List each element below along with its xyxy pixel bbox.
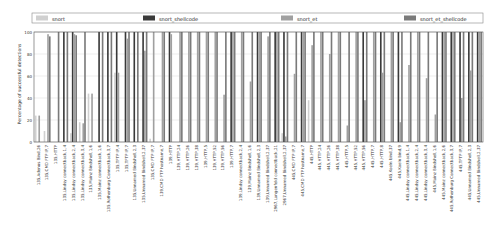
bar-snort-et [452, 32, 454, 142]
legend-label-snort: snort [52, 16, 65, 22]
bar-snort-et-shellcode [357, 32, 359, 142]
bar-snort-et-shellcode [163, 32, 165, 142]
x-tick-label: 135,CMD FTP IP,7 [44, 145, 49, 181]
x-tick-label: 2967,Langenfeld connectback,21 [273, 145, 278, 212]
bar-snort-et-shellcode [331, 32, 333, 142]
chart-container: snortsnort_shellcodesnort_etsnort_et_she… [0, 0, 485, 234]
x-tick-label: 445,HTTP,7 [370, 145, 375, 168]
x-tick-label: 445,Mainz connectback,2,6 [441, 145, 446, 200]
bar-snort-et [179, 32, 181, 142]
bar-snort-et [285, 137, 287, 143]
legend-label-snort-et: snort_et [297, 16, 317, 23]
bar-snort-et-shellcode [401, 32, 403, 142]
bar-snort-et [153, 32, 155, 142]
x-tick-label: 139,HTTP,56 [220, 145, 225, 171]
bar-snort-et [470, 71, 472, 143]
bar-snort-et-shellcode [67, 32, 69, 142]
bar-snort-shellcode [142, 32, 144, 142]
bar-snort-shellcode [257, 32, 259, 142]
bar-snort-et-shellcode [419, 32, 421, 142]
x-tick-label: 139,Mainz Bindshell,1,6 [247, 145, 252, 193]
bar-snort-et-shellcode [384, 32, 386, 142]
bar-snort-et-shellcode [348, 32, 350, 142]
bar-snort-et [206, 32, 208, 142]
x-tick-label: 135,Unnamed Bindshell,2,37 [141, 145, 146, 203]
bar-snort-et-shellcode [234, 32, 236, 142]
bar-snort-et [329, 54, 331, 142]
x-tick-label: 135,CMD FTP IP,7 [150, 145, 155, 181]
x-tick-label: 135,Lindsy connectback,2,4 [71, 145, 76, 202]
bar-snort-et [74, 34, 76, 142]
bar-snort-et-shellcode [181, 32, 183, 142]
y-tick-label: 20 [27, 118, 33, 123]
x-tick-label: 139,CMD FTP hostname,7 [159, 145, 164, 197]
bar-snort-shellcode [63, 32, 65, 142]
x-tick-label: 139,Lindsy connectback,2,4 [238, 145, 243, 202]
x-tick-label: 139,Unnamed Bindshell,2,3 [256, 145, 261, 201]
bar-snort-et-shellcode [428, 32, 430, 142]
x-tick-label: 445,Lindsy connectback,3,4 [423, 145, 428, 202]
bar-snort-et [408, 65, 410, 142]
bar-snort-et-shellcode [463, 32, 465, 142]
x-tick-label: 445,HTTP,26 [326, 145, 331, 171]
x-tick-label: 135,Rothenburg Connectback,3,7 [106, 145, 111, 213]
x-tick-label: 135,Lindsy connectback,1,4 [62, 145, 67, 202]
bar-snort-et [118, 73, 120, 142]
bar-snort-et [382, 73, 384, 142]
bar-snort-shellcode [116, 32, 118, 142]
x-tick-label: 445,Unnamed Bindshell,2,37 [476, 145, 481, 203]
bar-snort-shellcode [468, 32, 470, 142]
y-tick-label: 60 [27, 74, 33, 79]
bar-snort-shellcode [477, 32, 479, 142]
x-tick-label: 135,Mainz Bindshell,1,6 [88, 145, 93, 193]
bar-chart: snortsnort_shellcodesnort_etsnort_et_she… [0, 0, 485, 234]
x-tick-label: 139,Unnamed Bindshell,2,37 [265, 145, 270, 203]
bar-snort-shellcode [283, 32, 285, 142]
x-tick-label: 445,Mainz Bindshell,1,6 [432, 145, 437, 193]
bar-snort-et-shellcode [137, 32, 139, 142]
bar-snort-shellcode [362, 32, 364, 142]
bar-snort-et [294, 74, 296, 142]
bar-snort-et-shellcode [278, 32, 280, 142]
bar-snort [70, 133, 72, 142]
bar-snort-et [232, 32, 234, 142]
bar-snort-et-shellcode [75, 35, 77, 142]
bar-snort-et [82, 123, 84, 142]
bar-snort-et [479, 32, 481, 142]
y-axis-label: Percentage of successful detections [17, 43, 22, 124]
bar-snort-shellcode [450, 32, 452, 142]
bar-snort [281, 133, 283, 142]
bar-snort-et [364, 100, 366, 142]
bar-snort [114, 73, 116, 142]
bar-snort [149, 139, 151, 142]
bar-snort-shellcode [380, 32, 382, 142]
x-tick-label: 135,TFTP IP,4 [115, 145, 120, 173]
bar-snort-et [47, 34, 49, 142]
x-tick-label: 139,HTTP,7 [229, 145, 234, 168]
bar-snort-shellcode [230, 32, 232, 142]
bar-snort-et-shellcode [190, 32, 192, 142]
bar-snort-et-shellcode [260, 32, 262, 142]
bar-snort-shellcode [72, 32, 74, 142]
bar-snort-et-shellcode [340, 32, 342, 142]
bar-snort-et-shellcode [410, 32, 412, 142]
bar-snort-et [223, 95, 225, 142]
bar-snort-et [188, 32, 190, 142]
bar-snort-shellcode [133, 32, 135, 142]
bar-snort [88, 94, 90, 142]
bar-snort-shellcode [169, 32, 171, 142]
bar-snort-et [170, 34, 172, 142]
legend-swatch-snort [36, 16, 48, 21]
bars [35, 32, 482, 142]
bar-snort-shellcode [398, 32, 400, 142]
x-tick-label: 135,Lindsy connectback,3,4 [80, 145, 85, 202]
x-tick-label: 445,HTTP,8 [379, 145, 384, 168]
bar-snort-et-shellcode [304, 32, 306, 142]
x-tick-label: 445,CMD FTP hostname,7 [300, 145, 305, 197]
bar-snort-shellcode [125, 32, 127, 142]
bar-snort-et [443, 32, 445, 142]
x-tick-label: 445,Koeln bind,9 [397, 145, 402, 179]
x-tick-label: 445,TFTP IP,7 [458, 145, 463, 173]
bar-snort-et-shellcode [445, 32, 447, 142]
bar-snort-et [303, 32, 305, 142]
